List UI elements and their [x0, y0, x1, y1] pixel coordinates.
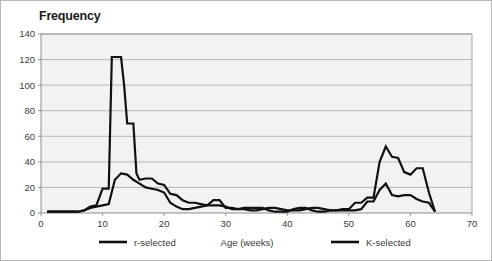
- y-axis-tick-label: 60: [24, 131, 35, 142]
- y-axis-tick-label: 0: [30, 207, 35, 218]
- plot-area-background: [41, 34, 472, 213]
- x-axis-tick-label: 40: [282, 218, 293, 229]
- legend-label-k-selected: K-selected: [366, 237, 411, 248]
- y-axis-tick-label: 120: [19, 54, 35, 65]
- frequency-line-chart: 020406080100120140 010203040506070 r-sel…: [1, 1, 492, 261]
- x-axis-tick-label: 30: [220, 218, 231, 229]
- chart-figure: Frequency 020406080100120140 01020304050…: [0, 0, 492, 261]
- y-axis-tick-label: 80: [24, 105, 35, 116]
- x-axis-tick-label: 50: [344, 218, 355, 229]
- y-axis-tick-labels: 020406080100120140: [19, 28, 41, 218]
- y-axis-tick-label: 20: [24, 182, 35, 193]
- x-axis-tick-label: 60: [405, 218, 416, 229]
- y-axis-tick-label: 100: [19, 80, 35, 91]
- chart-legend: r-selected Age (weeks) K-selected: [99, 237, 411, 248]
- x-axis-tick-label: 20: [159, 218, 170, 229]
- x-axis-tick-label: 10: [97, 218, 108, 229]
- x-axis-tick-labels: 010203040506070: [38, 213, 477, 229]
- legend-label-r-selected: r-selected: [134, 237, 176, 248]
- x-axis-tick-label: 0: [38, 218, 43, 229]
- y-axis-tick-label: 140: [19, 28, 35, 39]
- x-axis-label: Age (weeks): [221, 237, 274, 248]
- y-axis-tick-label: 40: [24, 156, 35, 167]
- x-axis-tick-label: 70: [467, 218, 478, 229]
